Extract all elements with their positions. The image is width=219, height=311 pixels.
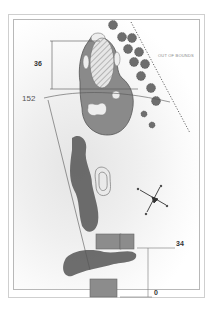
- back-tee: [90, 279, 117, 297]
- forward-tee: [96, 234, 134, 249]
- bunker-center: [112, 91, 120, 99]
- distance-to-green-label: 152: [22, 94, 35, 103]
- bunker-right: [114, 52, 120, 66]
- forward-tee-distance-label: 34: [176, 240, 184, 247]
- bunker-left: [83, 55, 89, 69]
- green-depth-label: 36: [34, 60, 42, 67]
- water-hazard-contour: [95, 167, 110, 195]
- compass-icon: [137, 185, 168, 215]
- out-of-bounds-label: OUT OF BOUNDS: [158, 53, 194, 58]
- green: [90, 38, 114, 88]
- golf-hole-diagram: [0, 0, 219, 311]
- back-tee-distance-label: 0: [154, 289, 158, 296]
- bunker-lower: [88, 103, 107, 115]
